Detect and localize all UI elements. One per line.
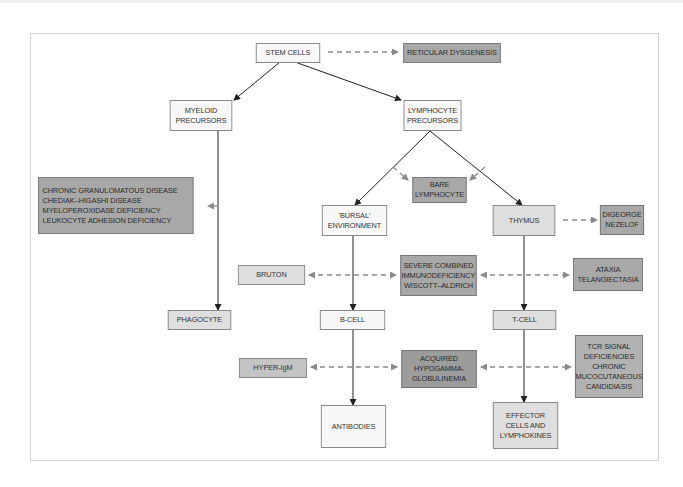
- thymus-node: THYMUS: [493, 205, 556, 236]
- acquired-hypogammaglobulinemia-node: ACQUIRED HYPOGAMMA- GLOBULINEMIA: [401, 350, 476, 388]
- phagocyte-node: PHAGOCYTE: [168, 310, 231, 330]
- lymphocyte-precursors-node: LYMPHOCYTE PRECURSORS: [404, 100, 462, 131]
- scid-wiscott-aldrich-node: SEVERE COMBINED IMMUNODEFICIENCY WISCOTT…: [400, 255, 476, 296]
- phagocyte-defects-node: CHRONIC GRANULOMATOUS DISEASE CHEDIAK–HI…: [38, 177, 193, 234]
- tcr-signal-node: TCR SIGNAL DEFICIENCIES CHRONIC MUCOCUTA…: [575, 335, 643, 398]
- t-cell-node: T-CELL: [493, 310, 556, 330]
- myeloid-precursors-node: MYELOID PRECURSORS: [170, 100, 233, 131]
- antibodies-node: ANTIBODIES: [321, 405, 386, 448]
- digeorge-nezelof-node: DIGEORGE NEZELOF: [600, 205, 644, 235]
- hyper-igm-node: HYPER-IgM: [239, 358, 307, 378]
- bare-lymphocyte-node: BARE LYMPHOCYTE: [412, 177, 466, 203]
- reticular-dysgenesis-node: RETICULAR DYSGENESIS: [403, 43, 501, 63]
- stem-cells-node: STEM CELLS: [256, 43, 320, 63]
- b-cell-node: B-CELL: [320, 310, 385, 330]
- bruton-node: BRUTON: [238, 265, 305, 285]
- ataxia-telangiectasia-node: ATAXIA TELANGIECTASIA: [573, 258, 643, 291]
- bursal-environment-node: 'BURSAL' ENVIRONMENT: [322, 205, 387, 236]
- effector-cells-node: EFFECTOR CELLS AND LYMPHOKINES: [493, 402, 558, 449]
